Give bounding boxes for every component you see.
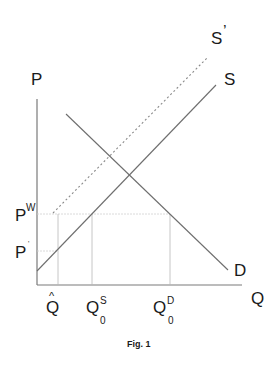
supply-curve-label: S [224, 71, 235, 88]
supply-prime-mark: ’ [223, 24, 227, 40]
pw-superscript: W [26, 203, 35, 213]
q0s-label: Q [86, 299, 99, 316]
q-axis-label: Q [251, 290, 264, 307]
supply-curve [37, 85, 216, 271]
q0s-subscript: 0 [100, 316, 106, 326]
demand-curve [66, 114, 228, 270]
figure-caption: Fig. 1 [127, 340, 151, 349]
q0d-label: Q [153, 299, 166, 316]
demand-curve-label: D [234, 262, 246, 279]
pprime-label: P [15, 244, 26, 261]
supply-prime-curve-label: S [211, 30, 222, 47]
q0s-superscript: S [100, 296, 107, 306]
pw-label: P [15, 207, 26, 224]
pprime-superscript: ' [28, 240, 29, 247]
q0d-subscript: 0 [168, 316, 174, 326]
qhat-hat: ^ [49, 291, 54, 302]
p-axis-label: P [31, 71, 42, 88]
economics-diagram [0, 0, 276, 365]
q0d-superscript: D [167, 296, 174, 306]
supply-prime-curve [53, 57, 208, 213]
